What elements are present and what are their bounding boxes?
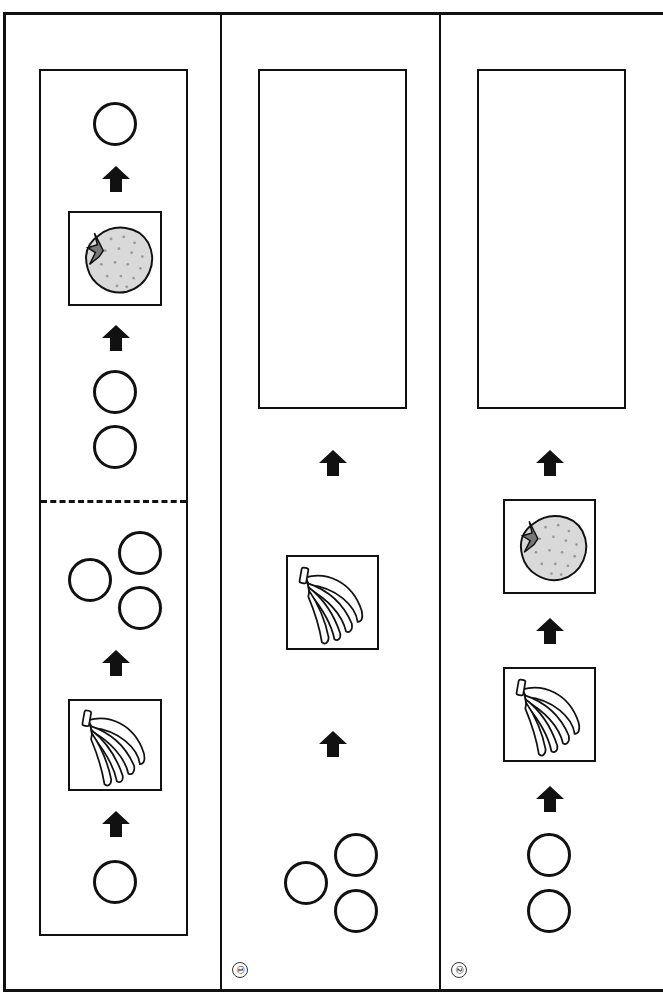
arrow-up-icon	[536, 786, 564, 812]
answer-box[interactable]	[477, 69, 626, 409]
strawberry-icon	[70, 213, 160, 304]
strawberry-card	[68, 211, 162, 306]
banana-icon	[70, 701, 160, 789]
circle-token	[93, 370, 137, 414]
arrow-up-icon	[536, 450, 564, 476]
banana-card	[286, 555, 379, 650]
circle-token	[68, 558, 112, 602]
circle-token	[527, 889, 571, 933]
dashed-divider	[41, 500, 186, 503]
arrow-up-icon	[102, 166, 130, 192]
circle-token	[527, 833, 571, 877]
question-number-label: ②	[451, 962, 467, 978]
circle-token	[93, 102, 137, 146]
arrow-up-icon	[319, 450, 347, 476]
banana-card	[68, 699, 162, 791]
banana-icon	[288, 557, 377, 648]
strawberry-card	[503, 499, 596, 594]
arrow-up-icon	[536, 618, 564, 644]
banana-card	[503, 667, 596, 762]
question-number-label: ①	[232, 962, 248, 978]
circle-token	[118, 586, 162, 630]
circle-token	[118, 531, 162, 575]
arrow-up-icon	[102, 650, 130, 676]
strawberry-icon	[505, 501, 594, 592]
circle-token	[284, 861, 328, 905]
panel-divider	[220, 12, 222, 992]
circle-token	[334, 833, 378, 877]
circle-token	[93, 425, 137, 469]
panel-divider	[439, 12, 441, 992]
arrow-up-icon	[102, 325, 130, 351]
circle-token	[334, 889, 378, 933]
banana-icon	[505, 669, 594, 760]
arrow-up-icon	[102, 811, 130, 837]
answer-box[interactable]	[258, 69, 407, 409]
arrow-up-icon	[319, 731, 347, 757]
circle-token	[93, 860, 137, 904]
